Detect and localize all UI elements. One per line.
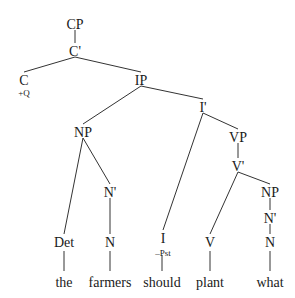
node-det: Det [54,235,74,250]
node-np-object: NP [261,185,279,200]
node-n-bar-object: N' [264,211,277,226]
edge-cbar-c [24,57,75,72]
word-what: what [256,275,283,290]
edge-np_subj-det [64,138,83,234]
node-vp: VP [229,130,247,145]
node-ip: IP [135,73,148,88]
node-v-bar: V' [232,159,245,174]
node-np-subject: NP [74,125,92,140]
word-should: should [143,275,180,290]
node-n-subject: N [105,235,115,250]
syntax-tree-diagram: CP C' C +Q IP I' NP N' Det N I –Pst VP V… [0,0,295,298]
edge-ibar-i [163,113,203,230]
node-i: I [161,231,166,246]
word-plant: plant [196,275,224,290]
node-n-bar-subject: N' [104,185,117,200]
edge-ip-np_subj [83,86,141,124]
edge-ibar-vp [203,113,238,129]
edge-ip-ibar [141,86,203,99]
tree-nodes: CP C' C +Q IP I' NP N' Det N I –Pst VP V… [18,17,279,258]
node-v: V [205,235,215,250]
terminal-words: the farmers should plant what [55,275,283,290]
feature-plus-q: +Q [18,88,30,98]
node-cp: CP [66,17,83,32]
word-the: the [55,275,72,290]
edge-vbar-v [210,172,238,234]
node-c: C [19,73,28,88]
edge-np_subj-nbar_subj [83,138,110,184]
node-n-object: N [265,235,275,250]
word-farmers: farmers [89,275,132,290]
node-c-bar: C' [69,44,81,59]
feature-minus-past: –Pst [154,248,171,258]
edge-cbar-ip [75,57,141,72]
node-i-bar: I' [199,100,206,115]
